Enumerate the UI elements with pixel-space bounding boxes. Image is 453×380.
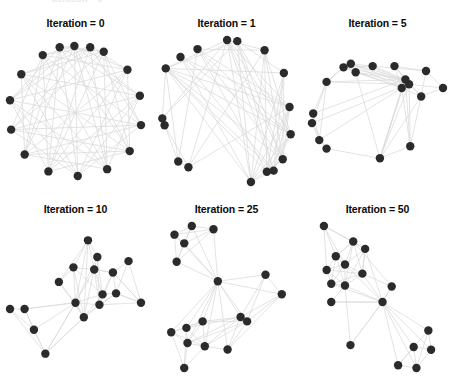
graph-edge — [218, 281, 241, 317]
graph-node — [162, 64, 170, 72]
graph-node — [20, 150, 28, 158]
figure-panel-grid: Iteration = 0 Iteration = 0Iteration = 1… — [0, 0, 453, 380]
graph-edge — [177, 262, 218, 282]
graph-node — [176, 53, 184, 61]
graph-node — [30, 326, 38, 334]
clipped-header-text: Iteration = 0 — [52, 0, 103, 4]
panel-iteration-1: Iteration = 1 — [151, 8, 302, 194]
graph-node — [103, 165, 111, 173]
graph-node — [70, 42, 78, 50]
graph-node — [412, 364, 420, 372]
graph-node — [280, 69, 288, 77]
graph-edge — [45, 317, 83, 353]
graph-edge — [327, 149, 380, 159]
graph-node — [126, 147, 134, 155]
graph-node — [172, 258, 180, 266]
graph-edge — [184, 243, 218, 281]
graph-node — [409, 343, 417, 351]
graph-node — [167, 328, 175, 336]
graph-edge — [345, 286, 350, 346]
graph-edge — [186, 317, 240, 328]
graph-node — [349, 237, 357, 245]
edge-layer — [10, 46, 141, 176]
graph-edge — [383, 302, 429, 330]
graph-edge — [380, 146, 410, 158]
graph-node — [347, 59, 355, 67]
graph-node — [223, 36, 231, 44]
graph-node — [209, 225, 217, 233]
graph-node — [223, 345, 231, 353]
graph-node — [320, 222, 328, 230]
graph-node — [214, 277, 222, 285]
graph-node — [346, 341, 354, 349]
graph-node — [136, 92, 144, 100]
graph-edge — [383, 302, 432, 350]
graph-node — [417, 92, 425, 100]
graph-node — [124, 257, 132, 265]
graph-node — [184, 163, 192, 171]
graph-node — [398, 84, 406, 92]
graph-edge — [241, 294, 282, 317]
graph-node — [160, 121, 168, 129]
graph-canvas — [302, 30, 453, 192]
panel-iteration-10: Iteration = 10 — [0, 194, 151, 380]
graph-canvas — [0, 216, 151, 378]
graph-node — [406, 142, 414, 150]
graph-canvas — [0, 30, 151, 192]
graph-edge — [350, 302, 382, 345]
graph-edge — [241, 275, 266, 317]
graph-node — [112, 289, 120, 297]
graph-canvas — [151, 216, 302, 378]
panel-title: Iteration = 25 — [195, 203, 259, 215]
graph-node — [69, 263, 77, 271]
graph-edge — [218, 281, 228, 349]
graph-node — [6, 305, 14, 313]
graph-node — [309, 109, 317, 117]
graph-node — [286, 130, 294, 138]
graph-node — [137, 299, 145, 307]
graph-node — [390, 62, 398, 70]
graph-node — [90, 265, 98, 273]
graph-node — [100, 48, 108, 56]
graph-edge — [274, 134, 291, 170]
graph-edge — [25, 55, 43, 154]
graph-node — [361, 245, 369, 253]
node-layer — [308, 59, 447, 162]
graph-node — [327, 298, 335, 306]
panel-title: Iteration = 1 — [198, 17, 256, 29]
graph-edge — [11, 47, 90, 129]
graph-node — [20, 305, 28, 313]
graph-node — [109, 268, 117, 276]
graph-node — [279, 155, 287, 163]
graph-node — [7, 125, 15, 133]
graph-edge — [10, 100, 78, 176]
graph-edge — [166, 68, 284, 73]
edge-layer — [10, 240, 141, 353]
graph-node — [201, 342, 209, 350]
graph-edge — [218, 275, 266, 282]
network-graph — [151, 30, 302, 192]
graph-node — [427, 345, 435, 353]
panel-title: Iteration = 50 — [346, 203, 410, 215]
graph-node — [394, 361, 402, 369]
graph-edge — [90, 47, 141, 125]
graph-node — [93, 253, 101, 261]
graph-node — [285, 103, 293, 111]
network-graph — [151, 216, 302, 378]
graph-node — [322, 266, 330, 274]
graph-node — [376, 154, 384, 162]
graph-edge — [99, 303, 141, 305]
graph-node — [39, 51, 47, 59]
panel-title: Iteration = 10 — [44, 203, 108, 215]
graph-canvas — [151, 30, 302, 192]
graph-node — [123, 66, 131, 74]
graph-node — [260, 46, 268, 54]
graph-edge — [180, 57, 289, 107]
network-graph — [0, 30, 151, 192]
graph-node — [322, 144, 330, 152]
graph-node — [422, 67, 430, 75]
graph-edge — [410, 96, 421, 146]
graph-node — [339, 63, 347, 71]
graph-node — [84, 236, 92, 244]
graph-node — [98, 290, 106, 298]
